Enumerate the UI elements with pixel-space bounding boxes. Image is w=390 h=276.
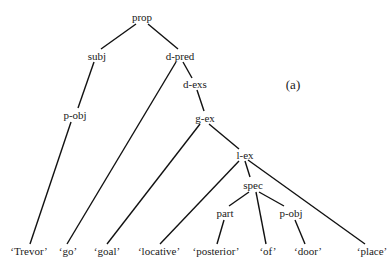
- node-p-obj-subj: p-obj: [63, 109, 86, 121]
- leaf-place: ‘place’: [357, 245, 388, 257]
- edge-prop-dpred: [148, 24, 178, 49]
- tree-edges: [30, 24, 365, 244]
- node-spec: spec: [243, 179, 263, 191]
- node-d-pred: d-pred: [166, 50, 195, 62]
- node-l-ex: l-ex: [236, 149, 254, 161]
- leaf-go: ‘go’: [59, 245, 77, 257]
- edge-spec-pobj: [259, 192, 284, 206]
- tree-nodes: prop subj d-pred d-exs p-obj g-ex l-ex s…: [63, 11, 302, 219]
- node-p-obj-spec: p-obj: [279, 207, 302, 219]
- edge-lex-place: [248, 160, 365, 244]
- edge-pobj-door: [295, 220, 305, 244]
- node-g-ex: g-ex: [195, 112, 215, 124]
- leaf-locative: ‘locative’: [138, 245, 180, 257]
- edge-gex-lex: [209, 124, 239, 149]
- tree-leaves: ‘Trevor’ ‘go’ ‘goal’ ‘locative’ ‘posteri…: [10, 245, 387, 257]
- edge-part-posterior: [217, 220, 224, 244]
- edge-dexs-gex: [197, 90, 204, 111]
- node-d-exs: d-exs: [183, 78, 207, 90]
- syntax-tree-diagram: prop subj d-pred d-exs p-obj g-ex l-ex s…: [0, 0, 390, 276]
- leaf-door: ‘door’: [294, 245, 322, 257]
- node-part: part: [216, 207, 233, 219]
- edge-gex-goal: [107, 124, 200, 244]
- panel-label: (a): [286, 77, 300, 92]
- leaf-posterior: ‘posterior’: [193, 245, 240, 257]
- edge-prop-subj: [101, 24, 136, 49]
- edge-lex-spec: [245, 161, 250, 177]
- edge-lex-locative: [160, 161, 239, 244]
- node-subj: subj: [88, 50, 106, 62]
- edge-pobj-trevor: [30, 122, 71, 244]
- edge-dpred-dexs: [183, 62, 192, 78]
- edge-spec-part: [229, 192, 249, 206]
- edge-subj-pobj: [78, 62, 94, 108]
- leaf-goal: ‘goal’: [94, 245, 120, 257]
- edge-spec-of: [256, 192, 266, 244]
- leaf-of: ‘of’: [259, 245, 276, 257]
- leaf-trevor: ‘Trevor’: [10, 245, 47, 257]
- node-prop: prop: [132, 11, 153, 23]
- edge-dpred-go: [67, 62, 176, 244]
